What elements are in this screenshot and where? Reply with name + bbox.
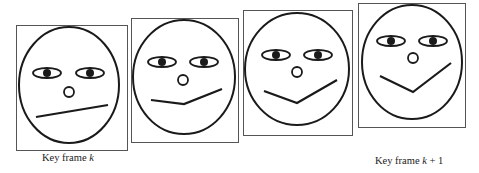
left-pupil bbox=[43, 69, 51, 77]
frame-2 bbox=[132, 19, 239, 143]
mouth bbox=[151, 89, 222, 104]
nose bbox=[64, 87, 74, 97]
frame-4 bbox=[359, 4, 466, 128]
label-suffix: + 1 bbox=[427, 155, 443, 166]
keyframe-k-plus-1-label: Key frame k + 1 bbox=[375, 155, 443, 166]
label-prefix: Key frame bbox=[375, 155, 422, 166]
mouth bbox=[380, 63, 451, 92]
label-prefix: Key frame bbox=[42, 152, 89, 163]
left-pupil bbox=[272, 51, 280, 59]
face-outline bbox=[133, 20, 235, 134]
nose bbox=[178, 75, 188, 85]
face-outline bbox=[245, 13, 349, 125]
label-variable: k bbox=[89, 152, 94, 163]
keyframe-k-label: Key frame k bbox=[42, 152, 94, 163]
keyframe-diagram bbox=[0, 0, 479, 173]
left-pupil bbox=[158, 58, 166, 66]
left-pupil bbox=[387, 37, 395, 45]
nose bbox=[292, 67, 302, 77]
right-pupil bbox=[314, 51, 322, 59]
right-pupil bbox=[86, 69, 94, 77]
mouth bbox=[264, 80, 337, 103]
mouth bbox=[36, 105, 108, 117]
frame-3 bbox=[244, 11, 353, 136]
nose bbox=[408, 53, 418, 63]
right-pupil bbox=[429, 37, 437, 45]
right-pupil bbox=[200, 58, 208, 66]
face-outline bbox=[19, 27, 119, 143]
frame-1 bbox=[17, 26, 128, 151]
